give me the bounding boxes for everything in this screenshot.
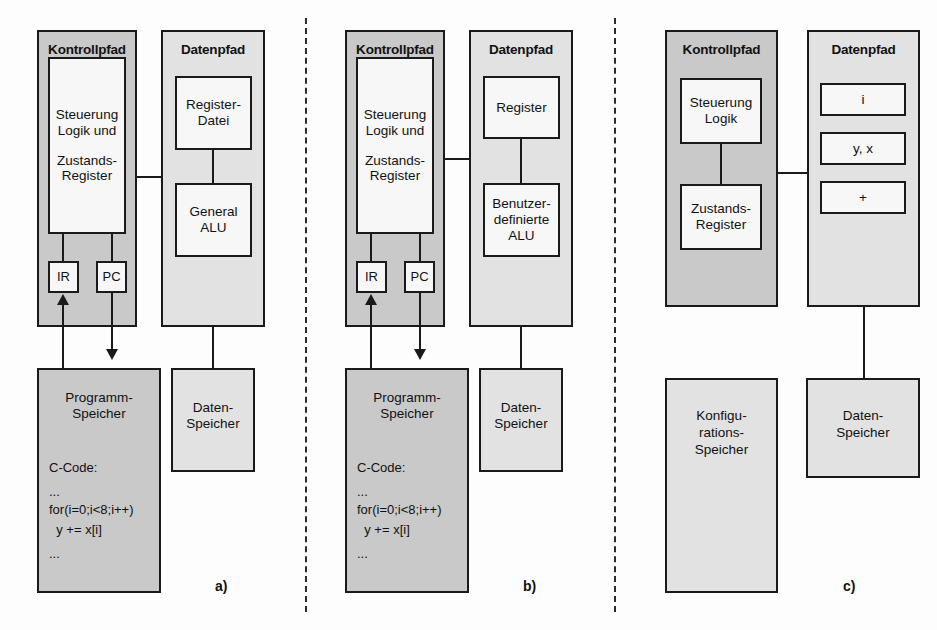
panel-a-ir-arrow-head [57,294,69,305]
panel-b-register-box: Register [483,76,560,139]
panel-b-logic-line-5: Register [370,168,420,184]
panel-c-data-memory-title-2: Speicher [808,425,918,441]
panel-b-logic-to-ir-line [370,234,372,261]
panel-b-program-memory-title-2: Speicher [347,406,467,422]
panel-b-ir-arrow-head [365,294,377,305]
panel-a-register-pc: PC [96,261,127,293]
panel-a-register-ir: IR [48,261,79,293]
separator-b-c [614,18,616,612]
panel-b-logic-line-1: Steuerung [364,107,426,123]
panel-b-logic-line-2: Logik und [366,123,425,139]
panel-c-control-path-title: Kontrollpfad [667,42,776,57]
panel-a-code-line-1: ... [49,482,155,502]
panel-b-alu-line-3: ALU [508,228,534,244]
panel-a-control-path-title: Kontrollpfad [39,42,135,57]
panel-a-pc-arrow-shaft [111,293,113,349]
panel-b-register-label: Register [496,100,546,116]
panel-c-data-path: Datenpfad [807,30,920,307]
panel-b-control-logic-box: Steuerung Logik und Zustands- Register [356,57,434,234]
panel-b-datapath-to-memory-line [520,327,522,368]
panel-a-alu-line-1: General [189,204,237,220]
panel-b-control-path-title: Kontrollpfad [347,42,443,57]
panel-c-datapath-box-plus-label: + [859,190,867,206]
panel-c-ctrl-data-connector [778,172,807,174]
panel-c-steuerung-line-1: Steuerung [690,95,752,111]
panel-c-config-memory-title-3: Speicher [667,442,776,458]
panel-b-register-to-alu-line [520,139,522,183]
panel-a-regfile-to-alu-line [212,150,214,183]
panel-c-datapath-box-plus: + [820,181,906,214]
panel-b-alu-line-2: definierte [494,212,550,228]
panel-b-data-memory: Daten- Speicher [479,368,563,472]
panel-a-register-file-box: Register- Datei [175,76,252,150]
panel-a-code-line-4: ... [49,544,155,564]
panel-a-data-memory-title-2: Speicher [173,416,253,432]
panel-c-steuerung-to-zustands-line [720,144,722,184]
panel-b-alu-line-1: Benutzer- [492,196,551,212]
panel-c-config-memory: Konfigu- rations- Speicher [665,378,778,593]
panel-c-datapath-to-memory-line [863,307,865,378]
panel-a-code-line-2: for(i=0;i<8;i++) [49,500,155,520]
panel-b-logic-line-4: Zustands- [365,153,425,169]
panel-b-data-memory-title-1: Daten- [481,400,561,416]
panel-a-data-memory-title-1: Daten- [173,400,253,416]
panel-b-program-memory: Programm- Speicher C-Code: ... for(i=0;i… [345,368,469,593]
panel-a-ctrl-data-connector [137,176,161,178]
panel-c-config-memory-title-2: rations- [667,425,776,441]
panel-c-data-path-title: Datenpfad [809,42,918,57]
panel-b-code-heading: C-Code: [357,458,463,478]
panel-a-program-memory-title-1: Programm- [39,390,159,406]
panel-a-program-memory-title-2: Speicher [39,406,159,422]
panel-c-datapath-box-yx: y, x [820,132,906,165]
panel-b-register-ir: IR [356,261,387,293]
panel-b-ir-arrow-shaft [370,305,372,368]
panel-a-register-pc-label: PC [102,269,120,284]
separator-a-b [305,18,307,612]
panel-a-logic-to-pc-line [111,234,113,261]
panel-a-register-ir-label: IR [57,269,70,284]
panel-a-register-file-line-1: Register- [186,97,241,113]
panel-a-register-file-line-2: Datei [198,113,230,129]
panel-a-logic-line-2: Logik und [58,123,117,139]
panel-a-datapath-to-memory-line [212,327,214,368]
panel-b-ctrl-data-connector [445,158,469,160]
panel-a-ir-arrow-shaft [62,305,64,368]
panel-b-caption: b) [523,578,536,594]
panel-a-data-path-title: Datenpfad [163,42,263,57]
panel-a-caption: a) [215,578,227,594]
panel-b-program-memory-title-1: Programm- [347,390,467,406]
panel-b-register-ir-label: IR [365,269,378,284]
panel-c-steuerung-logik-box: Steuerung Logik [680,78,762,144]
panel-c-steuerung-line-2: Logik [705,111,737,127]
panel-b-data-path-title: Datenpfad [471,42,571,57]
panel-a-pc-arrow-head [106,349,118,360]
panel-a-code-line-3: y += x[i] [49,520,155,540]
panel-c-zustands-register-box: Zustands- Register [680,184,762,250]
panel-b-alu-box: Benutzer- definierte ALU [483,183,560,257]
panel-a-program-memory: Programm- Speicher C-Code: ... for(i=0;i… [37,368,161,593]
panel-c-data-memory: Daten- Speicher [806,378,920,478]
panel-c-datapath-box-i: i [820,83,906,116]
panel-b-pc-arrow-head [414,349,426,360]
panel-c-data-memory-title-1: Daten- [808,408,918,424]
panel-b-code-line-2: for(i=0;i<8;i++) [357,500,463,520]
panel-c-config-memory-title-1: Konfigu- [667,408,776,424]
panel-a-code-heading: C-Code: [49,458,155,478]
panel-a-alu-line-2: ALU [200,220,226,236]
panel-c-datapath-box-i-label: i [862,92,865,108]
panel-b-logic-to-pc-line [419,234,421,261]
panel-a-logic-line-1: Steuerung [56,107,118,123]
architecture-comparison-figure: Kontrollpfad Steuerung Logik und Zustand… [0,0,937,630]
panel-b-register-pc: PC [404,261,435,293]
panel-b-code-line-1: ... [357,482,463,502]
panel-c-caption: c) [843,578,855,594]
panel-c-zustands-line-1: Zustands- [691,201,751,217]
panel-a-logic-line-4: Zustands- [57,153,117,169]
panel-a-alu-box: General ALU [175,183,252,257]
panel-a-logic-line-5: Register [62,168,112,184]
panel-b-register-pc-label: PC [410,269,428,284]
panel-b-code-line-3: y += x[i] [357,520,463,540]
panel-b-pc-arrow-shaft [419,293,421,349]
panel-a-logic-to-ir-line [62,234,64,261]
panel-b-data-memory-title-2: Speicher [481,416,561,432]
